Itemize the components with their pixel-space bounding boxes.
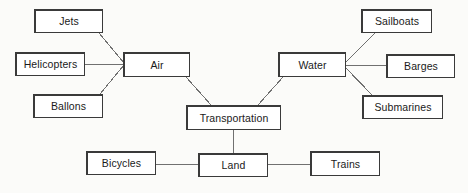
connector-water-sailboats (345, 33, 375, 63)
node-air[interactable]: Air (123, 52, 190, 77)
connector-air-transportation (186, 77, 211, 105)
node-label-water: Water (298, 59, 326, 70)
node-helicopters[interactable]: Helicopters (15, 52, 85, 76)
node-label-barges: Barges (404, 61, 438, 72)
node-land[interactable]: Land (198, 153, 268, 177)
node-submarines[interactable]: Submarines (362, 95, 443, 119)
node-trains[interactable]: Trains (310, 151, 380, 176)
node-jets[interactable]: Jets (34, 9, 103, 33)
node-bicycles[interactable]: Bicycles (86, 151, 156, 175)
node-water[interactable]: Water (278, 52, 346, 77)
transportation-concept-map: JetsHelicoptersBallonsAirTransportationW… (0, 0, 468, 193)
node-label-land: Land (222, 160, 246, 171)
node-label-jets: Jets (59, 16, 79, 27)
node-barges[interactable]: Barges (386, 54, 455, 78)
node-label-helicopters: Helicopters (24, 59, 78, 70)
node-sailboats[interactable]: Sailboats (361, 9, 432, 33)
node-transportation[interactable]: Transportation (186, 105, 281, 130)
node-label-transportation: Transportation (200, 112, 269, 123)
connector-water-transportation (258, 77, 283, 105)
node-label-ballons: Ballons (51, 101, 86, 112)
node-ballons[interactable]: Ballons (33, 94, 103, 118)
connector-ballons-air (100, 65, 124, 94)
node-label-air: Air (150, 59, 163, 70)
node-label-bicycles: Bicycles (102, 158, 141, 169)
connector-water-submarines (345, 67, 372, 95)
node-label-trains: Trains (331, 158, 360, 169)
connector-jets-air (99, 33, 124, 63)
node-label-submarines: Submarines (374, 102, 431, 113)
node-label-sailboats: Sailboats (375, 16, 419, 27)
